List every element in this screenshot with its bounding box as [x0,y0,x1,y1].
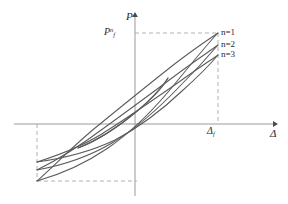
guide-lines-group [37,33,218,181]
x-tick-subscript: f [213,130,215,137]
hysteresis-curve-n1-upper [37,33,218,181]
hysteresis-figure: P Δ Pnf Δf n=1 n=2 n=3 [0,0,288,204]
y-axis-label: P [126,11,133,22]
hysteresis-curve-n3-lower [37,55,218,162]
curve-label-n2: n=2 [221,40,235,49]
curve-label-n3: n=3 [221,50,235,59]
hysteresis-curve-n2-lower [37,45,218,170]
x-axis-tick-label: Δf [207,126,215,137]
curve-label-n1: n=1 [221,28,235,37]
hysteresis-curves-group [37,33,218,181]
plot-canvas [0,0,288,204]
x-axis-label: Δ [270,128,276,139]
hysteresis-curve-n3-upper [37,55,218,162]
hysteresis-curve-n1-lower [37,33,218,181]
y-tick-subscript: f [113,31,115,38]
y-axis-tick-label: Pnf [104,27,115,38]
